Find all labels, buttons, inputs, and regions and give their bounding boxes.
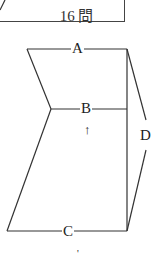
bottom-mark: ' [76,246,80,254]
label-a: A [71,41,84,56]
corner-slash [0,0,5,10]
label-c: C [62,224,74,239]
trapezoid-diagram [0,0,153,254]
label-b: B [80,101,92,116]
arrow-up-icon: ↑ [83,122,92,137]
label-d: D [139,128,152,143]
